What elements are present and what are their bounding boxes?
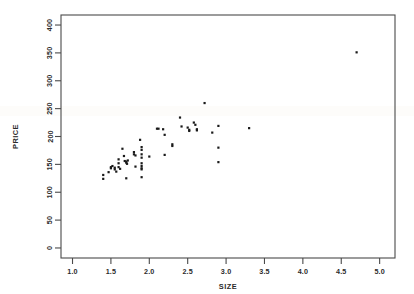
data-point [211,132,213,134]
y-tick-label: 200 [46,130,55,142]
x-axis-title: SIZE [219,282,237,291]
scan-artifact-band [0,106,414,116]
data-point [139,139,141,141]
data-point [171,145,173,147]
x-tick-label: 1.0 [67,267,77,276]
data-point [117,158,119,160]
y-tick-label: 250 [46,102,55,114]
data-point [193,121,195,123]
y-tick-label: 150 [46,158,55,170]
data-point [188,130,190,132]
data-point [114,168,116,170]
data-point [126,163,128,165]
data-point [141,168,143,170]
y-axis-title: PRICE [11,124,20,149]
data-point [217,125,219,127]
data-point [115,171,117,173]
data-point [125,177,127,179]
data-point [127,159,129,161]
data-point [164,134,166,136]
data-point [108,171,110,173]
data-point [134,166,136,168]
data-point [148,155,150,157]
data-point [179,116,181,118]
y-tick-label: 350 [46,47,55,59]
data-point [180,125,182,127]
data-point [134,154,136,156]
data-point [123,155,125,157]
x-tick-label: 3.0 [221,267,231,276]
x-tick-label: 2.5 [182,267,192,276]
x-tick-label: 5.0 [374,267,384,276]
data-point [102,178,104,180]
data-point [217,161,219,163]
y-tick-label: 0 [46,246,55,250]
data-point [141,146,143,148]
chart-canvas: 050100150200250300350400 1.01.52.02.53.0… [0,0,414,294]
y-tick-label: 100 [46,186,55,198]
y-tick-label: 400 [46,19,55,31]
x-tick-label: 2.0 [144,267,154,276]
data-point [164,154,166,156]
data-point [117,162,119,164]
data-point [196,129,198,131]
data-point [187,126,189,128]
data-point [111,165,113,167]
data-point [141,162,143,164]
data-point [110,167,112,169]
data-point [121,148,123,150]
scatter-plot-figure: 050100150200250300350400 1.01.52.02.53.0… [0,0,414,294]
y-tick-label: 300 [46,75,55,87]
x-tick-label: 3.5 [259,267,269,276]
data-point [248,127,250,129]
data-point [203,102,205,104]
data-point [119,168,121,170]
data-point [141,165,143,167]
data-point [141,157,143,159]
x-tick-label: 4.5 [336,267,346,276]
x-tick-label: 4.0 [298,267,308,276]
x-tick-label: 1.5 [106,267,116,276]
data-point [194,124,196,126]
data-point [157,128,159,130]
data-point [356,51,358,53]
data-point [141,149,143,151]
data-point [102,174,104,176]
figure-background [0,0,414,294]
data-point [162,128,164,130]
data-point [217,147,219,149]
y-tick-label: 50 [46,216,55,224]
data-point [141,153,143,155]
data-point [141,176,143,178]
data-point [133,151,135,153]
